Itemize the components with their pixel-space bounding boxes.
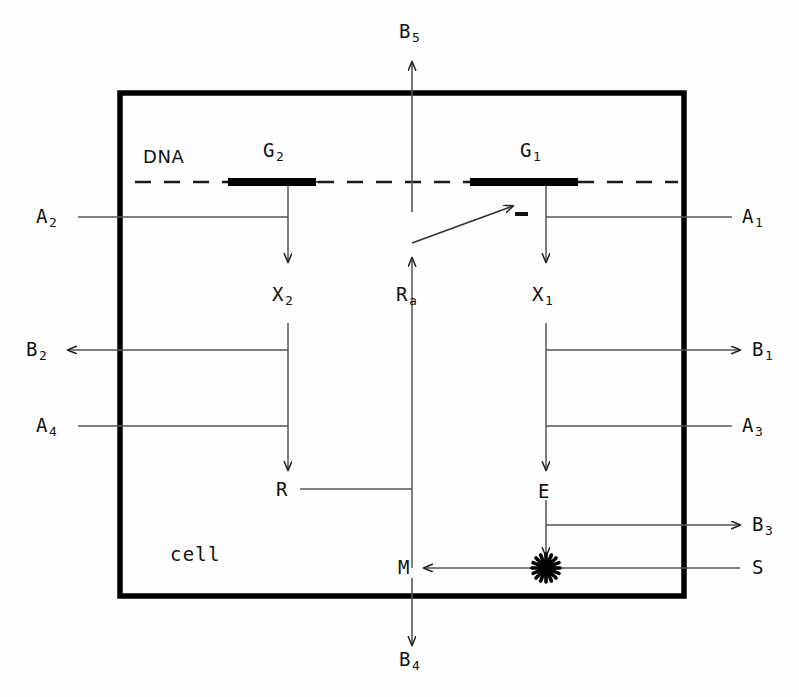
input-a4-sub: 4 [49,424,57,439]
output-b5-base: B [399,20,411,42]
product-e-base: E [538,480,550,502]
input-a4-base: A [36,414,48,436]
gene-label-g2: G2 [263,141,283,160]
input-s-base: S [752,556,764,578]
output-b3-base: B [752,513,764,535]
input-label-a2: A2 [36,207,56,226]
input-label-a3: A3 [742,416,762,435]
gene-block-g2 [228,178,316,186]
product-x1-base: X [532,283,544,305]
product-r-base: R [276,478,288,500]
product-label-x2: X2 [272,285,292,304]
product-x1-sub: 1 [545,293,553,308]
inhibition-arrow-ra-to-g1 [412,206,513,243]
output-label-b1: B1 [752,340,772,359]
input-a3-sub: 3 [755,424,763,439]
input-a3-base: A [742,414,754,436]
input-label-a4: A4 [36,416,56,435]
output-label-b3: B3 [752,515,772,534]
output-b2-base: B [26,338,38,360]
gene-label-g1: G1 [520,141,540,160]
product-label-r: R [276,480,288,499]
output-b3-sub: 3 [765,523,773,538]
inhibition-minus-sign [515,212,528,216]
input-a2-base: A [36,205,48,227]
product-ra-sub: a [409,293,417,308]
output-label-b4: B4 [399,650,419,669]
input-a1-base: A [742,205,754,227]
output-b1-sub: 1 [765,348,773,363]
input-label-s: S [752,558,764,577]
diagram-canvas: DNA cell G2 G1 X2 X1 R E M Ra A1 A2 A3 A… [0,0,799,697]
input-a1-sub: 1 [755,215,763,230]
output-b1-base: B [752,338,764,360]
output-b2-sub: 2 [39,348,47,363]
cell-label: cell [170,545,221,564]
product-m-base: M [398,556,410,578]
product-ra-base: R [396,283,408,305]
input-label-a1: A1 [742,207,762,226]
output-b5-sub: 5 [412,30,420,45]
diagram-svg [0,0,799,697]
input-a2-sub: 2 [49,215,57,230]
gene-g2-sub: 2 [276,149,284,164]
cell-membrane [120,93,684,596]
product-label-m: M [398,558,410,577]
product-x2-sub: 2 [285,293,293,308]
output-label-b2: B2 [26,340,46,359]
output-b4-base: B [399,648,411,670]
product-label-e: E [538,482,550,501]
gene-g1-base: G [520,139,532,161]
product-label-x1: X1 [532,285,552,304]
dna-label: DNA [143,148,184,166]
product-x2-base: X [272,283,284,305]
product-label-ra: Ra [396,285,416,304]
output-label-b5: B5 [399,22,419,41]
reaction-starburst-icon [532,554,560,582]
output-b4-sub: 4 [412,658,420,673]
gene-g2-base: G [263,139,275,161]
gene-block-g1 [470,178,578,186]
gene-g1-sub: 1 [533,149,541,164]
